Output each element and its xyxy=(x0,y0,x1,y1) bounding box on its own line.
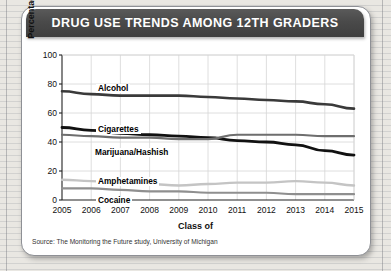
y-axis-tick-100: 100 xyxy=(35,51,57,59)
y-axis-tick-80: 80 xyxy=(35,80,57,88)
y-axis-label: Percentage who ever used xyxy=(25,0,37,56)
x-axis-tick-2009: 2009 xyxy=(164,206,194,215)
y-axis-tick-40: 40 xyxy=(35,138,57,146)
x-axis-tick-2012: 2012 xyxy=(251,206,281,215)
y-axis-tick-60: 60 xyxy=(35,109,57,117)
x-axis-tick-2005: 2005 xyxy=(47,206,77,215)
series-label-amphetamines: Amphetamines xyxy=(96,177,159,186)
series-label-cocaine: Cocaine xyxy=(96,196,132,205)
x-axis-label: Class of xyxy=(0,221,391,231)
x-axis-tick-2010: 2010 xyxy=(193,206,223,215)
x-axis-tick-2007: 2007 xyxy=(105,206,135,215)
series-label-alcohol: Alcohol xyxy=(96,84,130,93)
x-axis-tick-2008: 2008 xyxy=(135,206,165,215)
x-axis-tick-2013: 2013 xyxy=(281,206,311,215)
source-note: Source: The Monitoring the Future study,… xyxy=(32,238,218,245)
series-label-cigarettes: Cigarettes xyxy=(96,125,141,134)
x-axis-tick-2011: 2011 xyxy=(222,206,252,215)
x-axis-tick-2006: 2006 xyxy=(76,206,106,215)
x-axis-tick-2015: 2015 xyxy=(339,206,369,215)
x-axis-tick-2014: 2014 xyxy=(310,206,340,215)
y-axis-tick-0: 0 xyxy=(35,196,57,204)
y-axis-tick-20: 20 xyxy=(35,167,57,175)
series-label-marijuana-hashish: Marijuana/Hashish xyxy=(93,148,170,157)
